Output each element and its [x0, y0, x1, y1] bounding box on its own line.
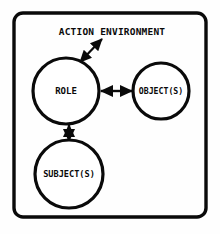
connector-role-to-environment: [80, 39, 102, 62]
page-title: ACTION ENVIRONMENT: [59, 26, 166, 37]
node-objects-label: OBJECT(S): [139, 86, 183, 96]
diagram-canvas: ACTION ENVIRONMENT ROLE OBJECT(S) SUBJEC…: [0, 0, 220, 234]
node-role-label: ROLE: [55, 86, 77, 96]
node-subjects-label: SUBJECT(S): [43, 169, 95, 179]
action-environment-diagram: ACTION ENVIRONMENT ROLE OBJECT(S) SUBJEC…: [0, 0, 220, 234]
